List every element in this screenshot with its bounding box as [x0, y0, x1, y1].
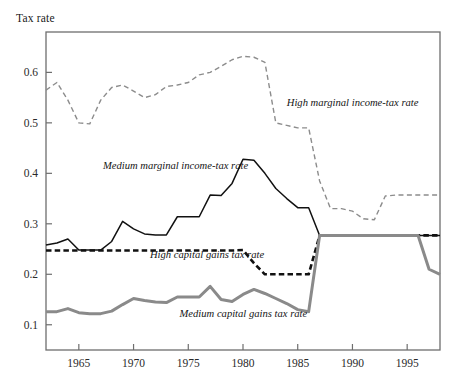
x-tick-label: 1965 [67, 357, 90, 369]
series-label: Medium marginal income-tax rate [102, 160, 249, 171]
line-chart-svg: 0.10.20.30.40.50.6 196519701975198019851… [0, 0, 456, 390]
series-line [46, 56, 440, 220]
y-tick-label: 0.4 [24, 167, 39, 179]
y-tick-label: 0.3 [24, 218, 39, 230]
y-tick-label: 0.6 [24, 66, 39, 78]
series-annotations: High marginal income-tax rateMedium marg… [102, 97, 419, 318]
y-tick-label: 0.5 [24, 117, 39, 129]
chart-figure: Tax rate 0.10.20.30.40.50.6 196519701975… [0, 0, 456, 390]
x-axis-ticks: 1965197019751980198519901995 [67, 344, 419, 369]
x-tick-label: 1985 [286, 357, 309, 369]
x-tick-label: 1970 [122, 357, 145, 369]
series-label: High marginal income-tax rate [286, 97, 419, 108]
series-label: High capital gains tax rate [149, 249, 264, 260]
plot-frame [46, 32, 440, 350]
x-tick-label: 1980 [232, 357, 255, 369]
y-axis-ticks: 0.10.20.30.40.50.6 [24, 66, 52, 330]
x-tick-label: 1975 [177, 357, 200, 369]
y-tick-label: 0.1 [24, 319, 39, 331]
data-series-layer [46, 56, 440, 313]
x-tick-label: 1990 [341, 357, 364, 369]
y-tick-label: 0.2 [24, 268, 39, 280]
x-tick-label: 1995 [396, 357, 419, 369]
series-label: Medium capital gains tax rate [179, 308, 308, 319]
